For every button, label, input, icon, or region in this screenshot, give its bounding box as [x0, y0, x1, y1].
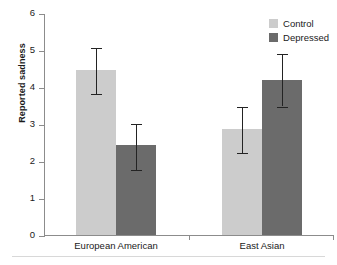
y-tick-0: 0: [39, 236, 45, 237]
legend-swatch-icon-depressed: [269, 33, 278, 42]
error-bar-line-depressed-1: [282, 54, 283, 107]
legend-swatch-icon-control: [269, 19, 278, 28]
footer-divider: [12, 256, 325, 257]
category-label-0: European American: [74, 240, 157, 251]
legend-item-depressed[interactable]: Depressed: [269, 32, 329, 43]
y-tick-1: 1: [39, 199, 45, 200]
error-cap-upper-control-1: [237, 107, 248, 108]
y-tick-6: 6: [39, 14, 45, 15]
y-tick-label-3: 3: [30, 118, 35, 129]
error-bar-line-control-0: [96, 48, 97, 94]
error-cap-lower-control-1: [237, 153, 248, 154]
y-tick-label-4: 4: [30, 81, 35, 92]
error-cap-upper-depressed-1: [277, 54, 288, 55]
y-tick-4: 4: [39, 88, 45, 89]
legend-label-control: Control: [283, 18, 314, 29]
plot-area: 0123456: [44, 14, 334, 236]
error-cap-lower-depressed-1: [277, 107, 288, 108]
legend-label-depressed: Depressed: [283, 32, 329, 43]
x-tick-1: [333, 236, 334, 240]
error-cap-upper-control-0: [91, 48, 102, 49]
error-cap-lower-depressed-0: [131, 170, 142, 171]
chart-figure: Reported sadness 0123456 European Americ…: [0, 0, 337, 265]
y-axis-title: Reported sadness: [17, 23, 27, 143]
y-tick-label-0: 0: [30, 229, 35, 240]
chart-legend: ControlDepressed: [269, 18, 329, 43]
y-tick-label-5: 5: [30, 44, 35, 55]
error-cap-upper-depressed-0: [131, 124, 142, 125]
y-tick-label-1: 1: [30, 192, 35, 203]
error-cap-lower-control-0: [91, 94, 102, 95]
error-bar-line-depressed-0: [136, 124, 137, 170]
category-label-1: East Asian: [240, 240, 285, 251]
x-tick-0: [189, 236, 190, 240]
y-tick-label-2: 2: [30, 155, 35, 166]
bar-control-0: [76, 70, 116, 235]
y-tick-label-6: 6: [30, 7, 35, 18]
y-tick-5: 5: [39, 51, 45, 52]
error-bar-line-control-1: [242, 107, 243, 153]
y-tick-2: 2: [39, 162, 45, 163]
y-tick-3: 3: [39, 125, 45, 126]
legend-item-control[interactable]: Control: [269, 18, 329, 29]
